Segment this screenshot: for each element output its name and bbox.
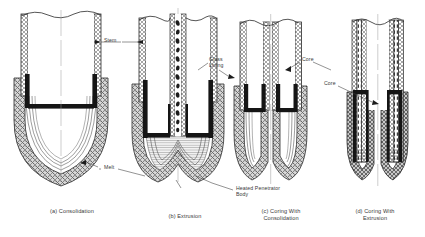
caption-panel-d-line2: Extrusion bbox=[363, 215, 387, 221]
figure-canvas: Stem Melt Glass Lining Core Core Heated … bbox=[0, 0, 425, 237]
leader-arrowheads bbox=[80, 40, 379, 165]
leader-body-center bbox=[176, 180, 181, 188]
leader-glass-lining bbox=[219, 70, 228, 76]
leader-body-left bbox=[212, 183, 233, 190]
caption-panel-a: (a) Consolidation bbox=[30, 208, 114, 215]
panel-d-coring-with-extrusion bbox=[347, 14, 408, 186]
callout-core-c: Core bbox=[302, 56, 314, 62]
caption-panel-c-line2: Consolidation bbox=[263, 215, 298, 221]
leader-melt-right bbox=[118, 169, 145, 176]
caption-panel-c: (c) Coring With Consolidation bbox=[238, 208, 324, 222]
callout-heated-penetrator-body: Heated Penetrator Body bbox=[236, 185, 280, 198]
leader-lines bbox=[86, 42, 372, 190]
caption-panel-b-line1: (b) Extrusion bbox=[168, 213, 201, 219]
panel-c-coring-with-consolidation bbox=[234, 14, 307, 184]
caption-panel-a-line1: (a) Consolidation bbox=[50, 208, 94, 214]
callout-melt: Melt bbox=[104, 164, 114, 170]
callout-penetrator-line1: Heated Penetrator bbox=[236, 185, 280, 191]
callout-glass-lining-line1: Glass bbox=[209, 56, 223, 62]
caption-panel-b: (b) Extrusion bbox=[148, 213, 222, 220]
caption-panel-c-line1: (c) Coring With bbox=[262, 208, 301, 214]
caption-panel-d: (d) Coring With Extrusion bbox=[332, 208, 418, 222]
callout-glass-lining-line2: Lining bbox=[209, 62, 223, 68]
panel-b-extrusion bbox=[132, 8, 224, 182]
callout-glass-lining: Glass Lining bbox=[209, 56, 223, 69]
caption-panel-d-line1: (d) Coring With bbox=[355, 208, 394, 214]
leader-core-c bbox=[313, 62, 331, 70]
callout-penetrator-line2: Body bbox=[236, 191, 248, 197]
callout-core-d: Core bbox=[324, 80, 336, 86]
panel-a-consolidation bbox=[14, 10, 108, 186]
penetrator-diagram-svg bbox=[0, 0, 425, 237]
callout-stem: Stem bbox=[104, 37, 117, 43]
